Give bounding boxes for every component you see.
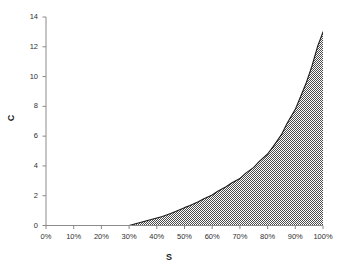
y-tick-label: 8 <box>22 101 38 110</box>
y-tick-label: 6 <box>22 131 38 140</box>
y-tick-label: 4 <box>22 161 38 170</box>
area-fill-path <box>46 32 323 226</box>
y-axis-tick-marks <box>43 17 47 226</box>
y-tick-label: 12 <box>22 42 38 51</box>
chart-container: 02468101214 0%10%20%30%40%50%60%70%80%90… <box>0 0 338 274</box>
y-axis-title: C <box>6 98 16 138</box>
y-tick-label: 0 <box>22 221 38 230</box>
x-axis-tick-marks <box>46 226 323 230</box>
y-tick-label: 2 <box>22 191 38 200</box>
x-tick-label: 100% <box>306 232 338 241</box>
x-axis-title: S <box>149 252 189 262</box>
area-series-group <box>46 32 323 226</box>
y-tick-label: 10 <box>22 72 38 81</box>
y-tick-label: 14 <box>22 12 38 21</box>
